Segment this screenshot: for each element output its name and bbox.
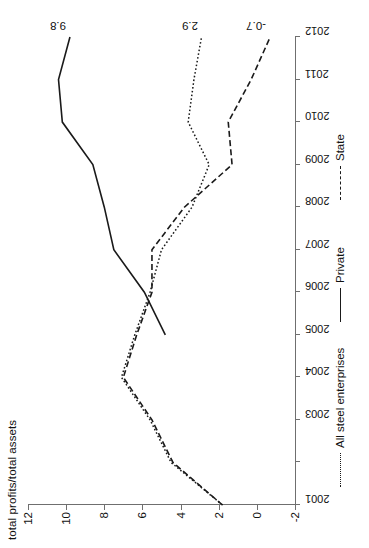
x-tick-mark xyxy=(295,461,300,462)
x-tick-mark xyxy=(295,121,300,122)
legend-item-label: All steel enterprises xyxy=(334,348,346,448)
y-tick-label: 4 xyxy=(175,512,187,518)
x-tick-label: 2012 xyxy=(305,25,329,37)
legend-item-label: State xyxy=(334,134,346,161)
x-tick-mark xyxy=(295,79,300,80)
y-tick-mark xyxy=(181,505,182,510)
x-tick-mark xyxy=(295,164,300,165)
x-tick-mark xyxy=(295,291,300,292)
y-tick-mark xyxy=(104,505,105,510)
y-tick-mark xyxy=(295,505,296,510)
end-value-label: -0.7 xyxy=(246,20,266,32)
x-tick-mark xyxy=(295,376,300,377)
end-value-label: 2.9 xyxy=(182,20,198,32)
end-value-label: 9.8 xyxy=(50,20,66,32)
legend-line-swatch xyxy=(340,288,341,322)
x-axis-line xyxy=(295,37,296,505)
y-tick-mark xyxy=(28,505,29,510)
x-tick-mark xyxy=(295,504,300,505)
y-tick-mark xyxy=(66,505,67,510)
x-tick-label: 2008 xyxy=(305,195,329,207)
y-axis-title: total profits/total assets xyxy=(6,420,18,540)
legend-line-swatch xyxy=(340,166,341,200)
x-tick-label: 2004 xyxy=(305,365,329,377)
series-lines xyxy=(28,37,295,505)
x-tick-mark xyxy=(295,419,300,420)
x-tick-mark xyxy=(295,334,300,335)
chart-legend: All steel enterprisesPrivateState xyxy=(330,37,360,505)
x-tick-mark xyxy=(295,36,300,37)
x-tick-label: 2005 xyxy=(305,323,329,335)
series-line-state xyxy=(123,37,270,505)
chart-rotation-wrapper: total profits/total assets 121086420-2 2… xyxy=(0,0,369,548)
y-tick-label: 6 xyxy=(136,512,148,518)
x-tick-label: 2006 xyxy=(305,280,329,292)
series-line-all-steel-enterprises xyxy=(121,37,222,505)
y-tick-label: 10 xyxy=(60,512,72,525)
x-tick-mark xyxy=(295,249,300,250)
y-tick-label: 0 xyxy=(251,512,263,518)
legend-item-label: Private xyxy=(334,247,346,283)
x-tick-label: 2003 xyxy=(305,408,329,420)
y-tick-mark xyxy=(257,505,258,510)
x-tick-label: 2007 xyxy=(305,238,329,250)
y-tick-mark xyxy=(219,505,220,510)
y-tick-label: -2 xyxy=(289,512,301,522)
x-tick-label: 2009 xyxy=(305,153,329,165)
x-tick-label: 2010 xyxy=(305,110,329,122)
legend-line-swatch xyxy=(340,453,341,487)
plot-area: 121086420-2 2001200320042005200620072008… xyxy=(28,37,295,505)
series-line-private xyxy=(59,37,166,335)
legend-item-private[interactable]: Private xyxy=(334,247,346,322)
line-chart-figure: total profits/total assets 121086420-2 2… xyxy=(0,0,369,548)
x-tick-label: 2011 xyxy=(305,68,329,80)
y-tick-label: 8 xyxy=(98,512,110,518)
legend-item-state[interactable]: State xyxy=(334,134,346,200)
y-tick-label: 2 xyxy=(213,512,225,518)
legend-item-all-steel-enterprises[interactable]: All steel enterprises xyxy=(334,348,346,487)
y-tick-mark xyxy=(142,505,143,510)
y-tick-label: 12 xyxy=(22,512,34,525)
x-tick-label: 2001 xyxy=(305,493,329,505)
x-tick-mark xyxy=(295,206,300,207)
